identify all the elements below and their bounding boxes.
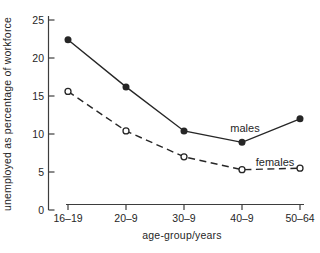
females-data-point xyxy=(239,167,245,173)
x-tick-label: 20–9 xyxy=(114,212,138,224)
females-data-point xyxy=(65,88,71,94)
y-tick-label: 5 xyxy=(38,166,44,178)
females-data-point xyxy=(123,128,129,134)
females-series-label: females xyxy=(256,156,295,168)
males-data-point xyxy=(123,83,130,90)
x-tick-label: 50–64 xyxy=(285,212,314,224)
unemployment-by-age-line-chart: 051015202516–1920–930–940–950–64 unemplo… xyxy=(0,0,320,253)
males-data-point xyxy=(239,139,246,146)
y-tick-label: 20 xyxy=(32,52,44,64)
y-tick-label: 0 xyxy=(38,204,44,216)
y-tick-label: 15 xyxy=(32,90,44,102)
males-line xyxy=(68,40,300,143)
chart-canvas: 051015202516–1920–930–940–950–64 unemplo… xyxy=(0,0,320,253)
males-data-point xyxy=(181,127,188,134)
x-tick-label: 40–9 xyxy=(230,212,254,224)
y-tick-label: 10 xyxy=(32,128,44,140)
y-tick-label: 25 xyxy=(32,14,44,26)
data-series xyxy=(65,36,304,172)
males-data-point xyxy=(297,115,304,122)
males-series-label: males xyxy=(230,122,260,134)
females-data-point xyxy=(181,154,187,160)
males-data-point xyxy=(65,36,72,43)
x-tick-label: 16–19 xyxy=(53,212,82,224)
x-axis-title: age-group/years xyxy=(142,229,221,241)
x-tick-label: 30–9 xyxy=(172,212,196,224)
y-axis-title: unemployed as percentage of workforce xyxy=(1,17,13,211)
females-data-point xyxy=(297,165,303,171)
